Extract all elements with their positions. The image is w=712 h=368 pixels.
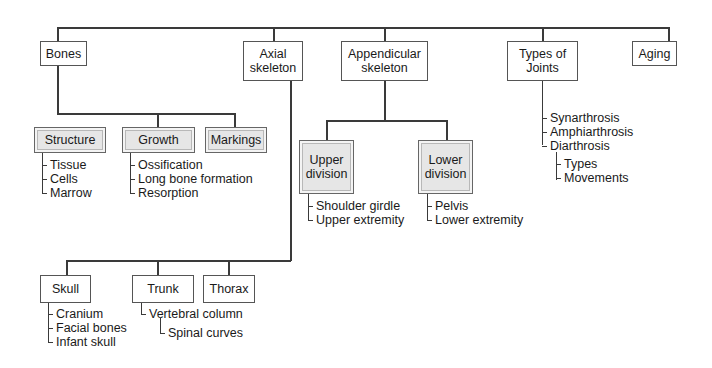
node-label: Bones — [46, 47, 81, 61]
list-item: Synarthrosis — [542, 111, 633, 125]
node-axial-skeleton: Axial skeleton — [243, 41, 303, 81]
node-label: Axial skeleton — [250, 47, 297, 75]
node-markings: Markings — [205, 127, 267, 153]
node-bones: Bones — [40, 41, 87, 66]
list-item: Long bone formation — [130, 172, 253, 186]
connector-markings — [234, 113, 236, 127]
node-growth: Growth — [122, 127, 195, 153]
joints-list: Synarthrosis Amphiarthrosis Diarthrosis — [542, 81, 633, 153]
node-trunk: Trunk — [132, 275, 194, 303]
list-item: Facial bones — [48, 321, 127, 335]
node-label: Upper division — [306, 153, 348, 181]
connector-growth — [157, 113, 159, 127]
node-aging: Aging — [632, 41, 677, 66]
list-item: Marrow — [42, 186, 92, 200]
connector-skull — [66, 260, 68, 275]
node-types-of-joints: Types of Joints — [507, 41, 578, 81]
node-skull: Skull — [40, 275, 91, 303]
list-item: Types — [556, 157, 629, 171]
connector-thorax — [228, 260, 230, 275]
list-item: Diarthrosis — [542, 139, 633, 153]
top-connector — [57, 27, 669, 29]
list-item: Upper extremity — [308, 213, 404, 227]
node-label: Lower division — [425, 153, 467, 181]
connector-axial-branch — [66, 260, 291, 262]
connector-upper — [326, 120, 328, 140]
node-structure: Structure — [34, 127, 106, 153]
connector-trunk — [157, 260, 159, 275]
upper-division-list: Shoulder girdle Upper extremity — [308, 194, 404, 227]
list-item: Resorption — [130, 186, 253, 200]
connector-axial — [273, 27, 275, 41]
list-item: Movements — [556, 171, 629, 185]
node-thorax: Thorax — [203, 275, 255, 303]
list-item: Shoulder girdle — [308, 199, 404, 213]
list-item: Ossification — [130, 158, 253, 172]
connector-bones-branch — [57, 113, 235, 115]
node-lower-division: Lower division — [418, 140, 473, 194]
node-label: Trunk — [147, 282, 179, 296]
list-item: Spinal curves — [160, 326, 243, 340]
node-label: Growth — [138, 133, 178, 147]
node-upper-division: Upper division — [299, 140, 354, 194]
skull-list: Cranium Facial bones Infant skull — [48, 303, 127, 349]
list-item: Cells — [42, 172, 92, 186]
node-label: Aging — [639, 47, 671, 61]
node-label: Appendicular skeleton — [348, 47, 421, 75]
growth-list: Ossification Long bone formation Resorpt… — [130, 153, 253, 200]
list-item: Infant skull — [48, 335, 127, 349]
connector-appendicular-down — [384, 81, 386, 121]
node-label: Thorax — [210, 282, 249, 296]
connector-axial-down — [290, 81, 292, 261]
list-item: Tissue — [42, 158, 92, 172]
connector-appendicular — [384, 27, 386, 41]
structure-list: Tissue Cells Marrow — [42, 153, 92, 200]
list-item: Amphiarthrosis — [542, 125, 633, 139]
list-item: Pelvis — [427, 199, 523, 213]
list-item: Lower extremity — [427, 213, 523, 227]
connector-aging — [668, 27, 670, 41]
connector-bones-down — [57, 66, 59, 114]
node-label: Structure — [45, 133, 96, 147]
node-label: Types of Joints — [519, 47, 566, 75]
diarthrosis-list: Types Movements — [556, 152, 629, 185]
node-appendicular-skeleton: Appendicular skeleton — [341, 41, 428, 81]
node-label: Skull — [52, 282, 79, 296]
spinal-curves-list: Spinal curves — [160, 318, 243, 340]
connector-joints — [542, 27, 544, 41]
list-item: Cranium — [48, 307, 127, 321]
connector-lower — [446, 120, 448, 140]
node-label: Markings — [211, 133, 262, 147]
lower-division-list: Pelvis Lower extremity — [427, 194, 523, 227]
connector-appendicular-branch — [326, 120, 447, 122]
connector-bones — [57, 27, 59, 41]
